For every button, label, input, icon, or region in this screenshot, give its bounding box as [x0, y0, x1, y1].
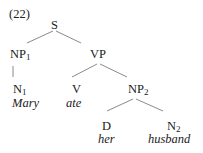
word-her: her [98, 133, 115, 145]
word-mary: Mary [12, 97, 39, 109]
node-s: S [51, 19, 58, 31]
word-husband: husband [148, 133, 190, 145]
node-n2: N2 [167, 120, 181, 132]
syntax-tree-diagram: (22) S NP1 VP N1 Mary V ate NP2 D her N2… [0, 0, 203, 153]
example-number: (22) [9, 8, 30, 20]
node-n1-label: N [13, 82, 22, 96]
node-d: D [102, 120, 111, 132]
node-v: V [72, 83, 81, 95]
node-n2-label: N [167, 119, 176, 133]
node-np1-label: NP [10, 47, 26, 61]
node-np2-subscript: 2 [144, 87, 149, 97]
node-vp: VP [90, 48, 106, 60]
node-np1: NP1 [10, 48, 30, 60]
word-ate: ate [66, 97, 81, 109]
node-np2-label: NP [128, 82, 144, 96]
node-n1: N1 [13, 83, 27, 95]
node-np2: NP2 [128, 83, 148, 95]
node-np1-subscript: 1 [26, 52, 31, 62]
